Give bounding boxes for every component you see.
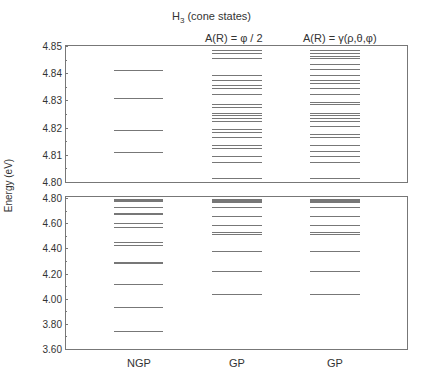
upper-level-gp-phi xyxy=(212,121,262,122)
lower-level-gp-phi xyxy=(212,232,262,233)
lower-y-tick-mark xyxy=(65,248,68,249)
upper-y-tick-label: 4.83 xyxy=(43,95,62,106)
upper-level-gp-gamma xyxy=(310,151,360,152)
upper-level-gp-gamma xyxy=(310,118,360,119)
upper-y-minor-tick xyxy=(65,114,67,115)
lower-y-tick-mark xyxy=(65,198,68,199)
lower-level-ngp xyxy=(114,331,163,332)
upper-level-gp-phi xyxy=(212,75,262,76)
lower-y-minor-tick xyxy=(65,336,67,337)
upper-level-gp-phi xyxy=(212,118,262,119)
upper-level-gp-phi xyxy=(212,88,262,89)
column-subtitle-gp-gamma: A(R) = γ(ρ,θ,φ) xyxy=(303,32,377,44)
y-axis-label: Energy (eV) xyxy=(3,159,14,212)
upper-y-minor-tick xyxy=(65,60,67,61)
lower-y-minor-tick xyxy=(65,311,67,312)
lower-y-tick-label: 4.00 xyxy=(43,293,62,304)
upper-y-minor-tick xyxy=(65,141,67,142)
lower-level-ngp xyxy=(114,223,163,224)
upper-level-gp-gamma xyxy=(310,178,360,179)
lower-level-ngp xyxy=(114,307,163,308)
lower-level-gp-gamma xyxy=(310,232,360,233)
upper-level-gp-phi xyxy=(212,53,262,54)
upper-y-tick-mark xyxy=(65,155,68,156)
upper-level-gp-gamma xyxy=(310,58,360,59)
lower-level-gp-phi xyxy=(212,207,262,208)
lower-level-gp-phi xyxy=(212,251,262,252)
upper-level-gp-phi xyxy=(212,80,262,81)
upper-level-gp-phi xyxy=(212,178,262,179)
upper-level-gp-phi xyxy=(212,58,262,59)
upper-level-gp-phi xyxy=(212,115,262,116)
upper-level-gp-phi xyxy=(212,145,262,146)
x-label-ngp: NGP xyxy=(127,357,151,369)
upper-y-minor-tick xyxy=(65,87,67,88)
lower-y-tick-label: 4.80 xyxy=(43,193,62,204)
x-label-gp-gamma: GP xyxy=(327,357,343,369)
x-label-gp-phi: GP xyxy=(229,357,245,369)
lower-level-gp-gamma xyxy=(310,202,360,203)
upper-level-gp-gamma xyxy=(310,80,360,81)
lower-level-gp-phi xyxy=(212,202,262,203)
lower-y-tick-label: 3.80 xyxy=(43,318,62,329)
lower-level-ngp xyxy=(114,284,163,285)
upper-level-gp-gamma xyxy=(310,156,360,157)
lower-level-gp-gamma xyxy=(310,271,360,272)
upper-level-gp-phi xyxy=(212,104,262,105)
upper-level-gp-phi xyxy=(212,132,262,133)
upper-level-gp-phi xyxy=(212,50,262,51)
upper-level-gp-phi xyxy=(212,148,262,149)
lower-level-ngp xyxy=(114,245,163,246)
upper-level-gp-gamma xyxy=(310,137,360,138)
upper-y-tick-label: 4.84 xyxy=(43,68,62,79)
lower-y-tick-mark xyxy=(65,299,68,300)
upper-level-gp-phi xyxy=(212,113,262,114)
upper-y-tick-mark xyxy=(65,128,68,129)
upper-level-gp-gamma xyxy=(310,53,360,54)
upper-level-gp-phi xyxy=(212,162,262,163)
upper-level-gp-gamma xyxy=(310,104,360,105)
upper-level-gp-gamma xyxy=(310,113,360,114)
lower-level-gp-phi xyxy=(212,234,262,235)
lower-level-ngp xyxy=(114,201,163,202)
upper-level-gp-gamma xyxy=(310,94,360,95)
upper-level-gp-gamma xyxy=(310,56,360,57)
lower-level-gp-phi xyxy=(212,216,262,217)
upper-level-gp-phi xyxy=(212,94,262,95)
lower-y-minor-tick xyxy=(65,286,67,287)
lower-y-tick-mark xyxy=(65,274,68,275)
upper-level-ngp xyxy=(114,152,163,153)
upper-level-gp-gamma xyxy=(310,162,360,163)
upper-level-gp-phi xyxy=(212,156,262,157)
upper-level-gp-phi xyxy=(212,85,262,86)
upper-y-minor-tick xyxy=(65,168,67,169)
lower-level-gp-gamma xyxy=(310,225,360,226)
lower-level-gp-gamma xyxy=(310,251,360,252)
upper-level-gp-gamma xyxy=(310,102,360,103)
lower-y-tick-mark xyxy=(65,349,68,350)
lower-y-minor-tick xyxy=(65,211,67,212)
lower-level-gp-phi xyxy=(212,271,262,272)
upper-y-tick-mark xyxy=(65,100,68,101)
lower-y-tick-mark xyxy=(65,223,68,224)
upper-y-tick-mark xyxy=(65,73,68,74)
lower-level-gp-gamma xyxy=(310,234,360,235)
upper-level-ngp xyxy=(114,98,163,99)
upper-level-gp-gamma xyxy=(310,64,360,65)
lower-panel xyxy=(65,196,408,350)
upper-level-gp-gamma xyxy=(310,134,360,135)
lower-level-ngp xyxy=(114,227,163,228)
chart-title: H3 (cone states) xyxy=(0,10,423,25)
upper-level-gp-gamma xyxy=(310,115,360,116)
lower-level-ngp xyxy=(114,207,163,208)
upper-level-gp-phi xyxy=(212,129,262,130)
lower-y-tick-label: 4.60 xyxy=(43,218,62,229)
lower-level-gp-phi xyxy=(212,294,262,295)
upper-y-tick-label: 4.82 xyxy=(43,122,62,133)
lower-y-tick-label: 3.60 xyxy=(43,344,62,355)
lower-y-minor-tick xyxy=(65,261,67,262)
upper-y-tick-label: 4.81 xyxy=(43,149,62,160)
lower-level-gp-phi xyxy=(212,225,262,226)
upper-level-gp-phi xyxy=(212,107,262,108)
upper-level-gp-gamma xyxy=(310,69,360,70)
